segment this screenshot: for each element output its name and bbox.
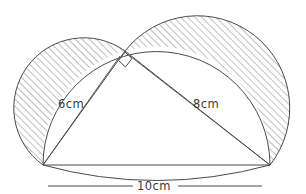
diagram-canvas: 6cm 8cm 10cm (0, 0, 306, 194)
geometry-figure: 6cm 8cm 10cm (0, 0, 306, 194)
label-leg-a: 6cm (58, 97, 84, 111)
label-hypotenuse: 10cm (137, 179, 171, 193)
label-leg-b: 8cm (193, 97, 219, 111)
